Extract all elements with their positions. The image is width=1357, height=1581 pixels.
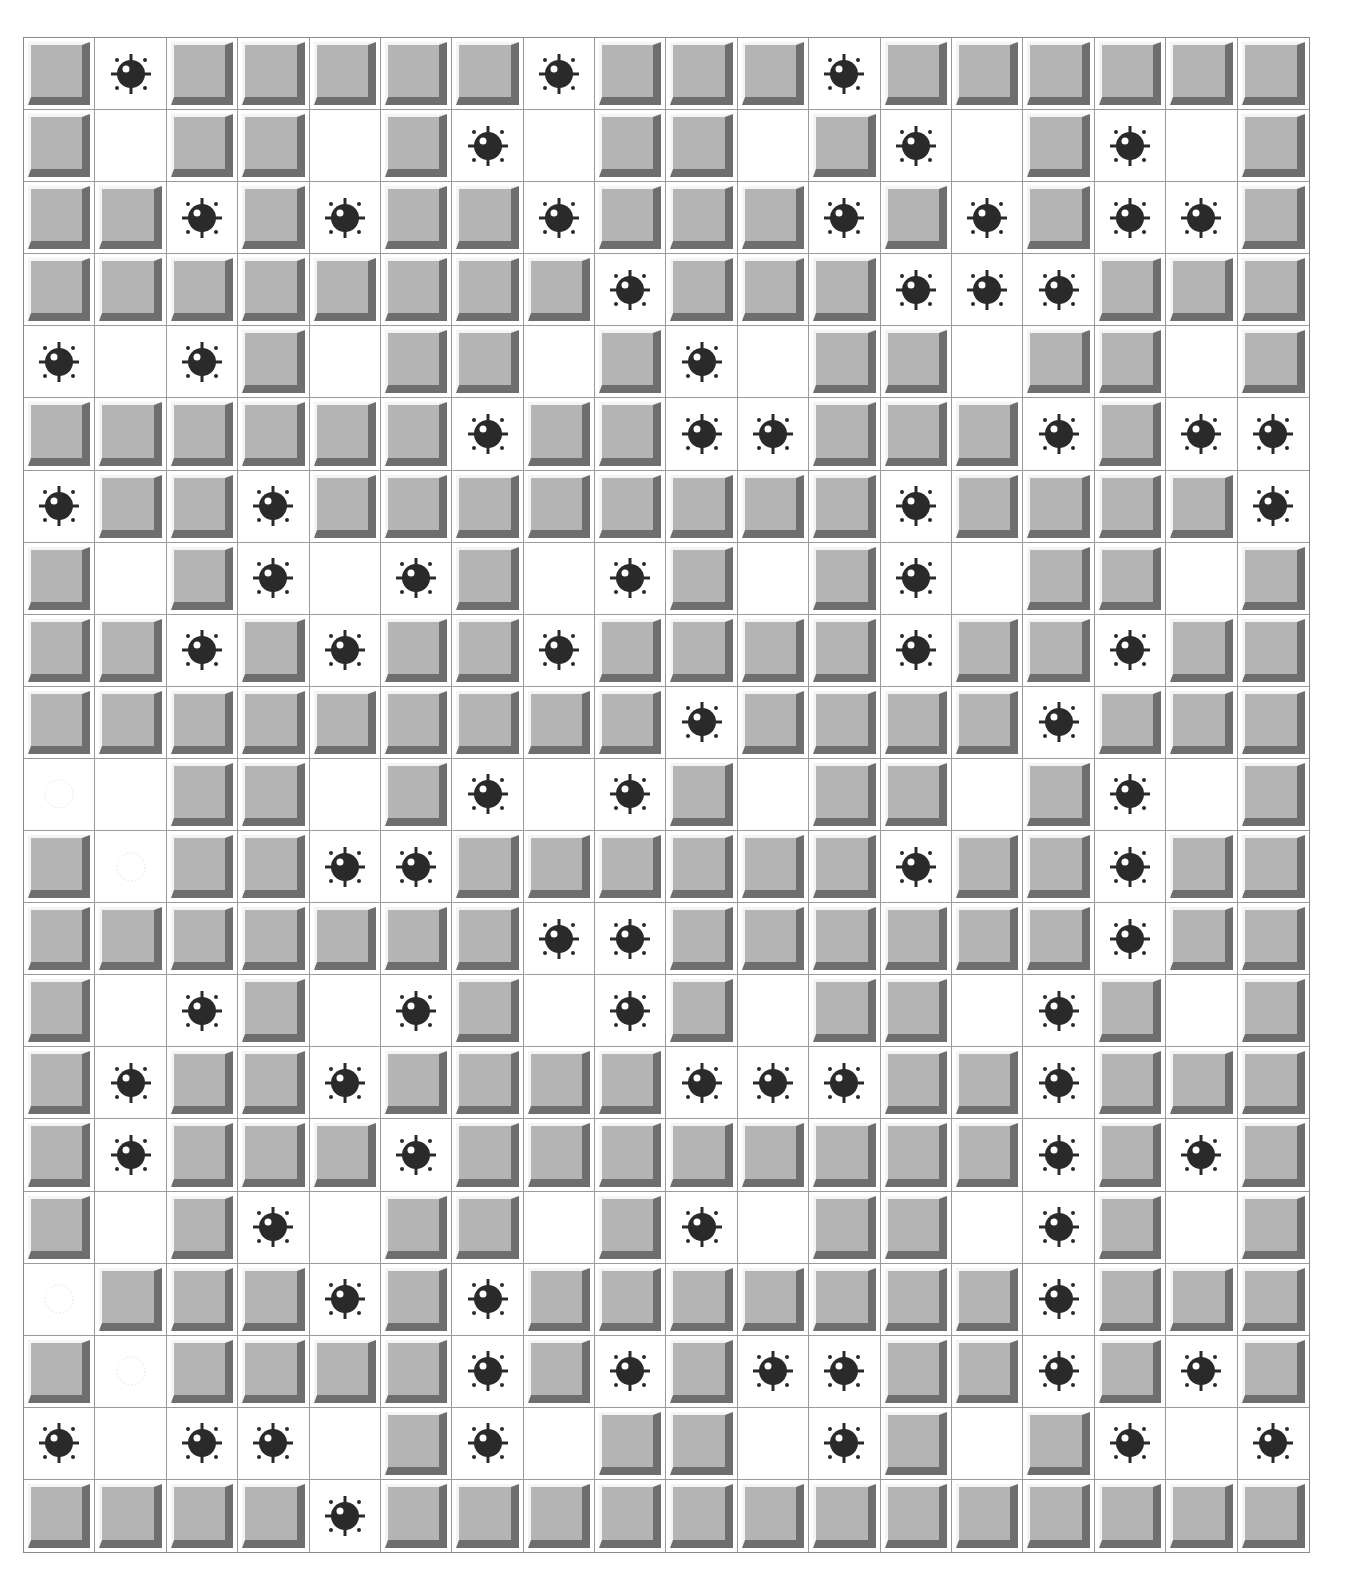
cell-unrevealed-r9-c17[interactable] <box>1238 687 1309 759</box>
cell-unrevealed-r15-c17[interactable] <box>1238 1119 1309 1191</box>
cell-mine-r6-c3[interactable] <box>238 471 309 543</box>
cell-unrevealed-r18-c17[interactable] <box>1238 1336 1309 1408</box>
cell-unrevealed-r9-c12[interactable] <box>881 687 952 759</box>
cell-mine-r8-c4[interactable] <box>310 615 381 687</box>
cell-mine-r15-c14[interactable] <box>1023 1119 1094 1191</box>
cell-mine-r5-c9[interactable] <box>666 398 737 470</box>
cell-unrevealed-r13-c0[interactable] <box>24 975 95 1047</box>
cell-unrevealed-r8-c10[interactable] <box>738 615 809 687</box>
cell-unrevealed-r18-c3[interactable] <box>238 1336 309 1408</box>
cell-mine-r2-c16[interactable] <box>1166 182 1237 254</box>
cell-empty-r16-c4[interactable] <box>310 1192 381 1264</box>
cell-unrevealed-r16-c2[interactable] <box>167 1192 238 1264</box>
cell-mine-r3-c8[interactable] <box>595 254 666 326</box>
cell-unrevealed-r3-c16[interactable] <box>1166 254 1237 326</box>
cell-empty-r13-c16[interactable] <box>1166 975 1237 1047</box>
cell-unrevealed-r2-c3[interactable] <box>238 182 309 254</box>
cell-unrevealed-r0-c0[interactable] <box>24 38 95 110</box>
cell-unrevealed-r6-c10[interactable] <box>738 471 809 543</box>
cell-unrevealed-r2-c12[interactable] <box>881 182 952 254</box>
cell-mine-r17-c14[interactable] <box>1023 1264 1094 1336</box>
cell-mine-r2-c11[interactable] <box>809 182 880 254</box>
cell-unrevealed-r15-c9[interactable] <box>666 1119 737 1191</box>
cell-unrevealed-r5-c3[interactable] <box>238 398 309 470</box>
cell-unrevealed-r6-c7[interactable] <box>524 471 595 543</box>
cell-unrevealed-r14-c15[interactable] <box>1095 1047 1166 1119</box>
cell-unrevealed-r0-c8[interactable] <box>595 38 666 110</box>
cell-unrevealed-r18-c12[interactable] <box>881 1336 952 1408</box>
cell-unrevealed-r10-c9[interactable] <box>666 759 737 831</box>
cell-unrevealed-r17-c13[interactable] <box>952 1264 1023 1336</box>
cell-unrevealed-r17-c16[interactable] <box>1166 1264 1237 1336</box>
cell-unrevealed-r9-c16[interactable] <box>1166 687 1237 759</box>
cell-unrevealed-r20-c17[interactable] <box>1238 1480 1309 1552</box>
cell-unrevealed-r18-c9[interactable] <box>666 1336 737 1408</box>
cell-mine-r2-c2[interactable] <box>167 182 238 254</box>
cell-unrevealed-r12-c13[interactable] <box>952 903 1023 975</box>
cell-unrevealed-r8-c3[interactable] <box>238 615 309 687</box>
cell-mine-r6-c17[interactable] <box>1238 471 1309 543</box>
cell-unrevealed-r14-c2[interactable] <box>167 1047 238 1119</box>
cell-empty-r4-c1[interactable] <box>95 326 166 398</box>
cell-unrevealed-r12-c6[interactable] <box>452 903 523 975</box>
cell-mine-r14-c14[interactable] <box>1023 1047 1094 1119</box>
cell-unrevealed-r3-c6[interactable] <box>452 254 523 326</box>
cell-unrevealed-r12-c5[interactable] <box>381 903 452 975</box>
cell-unrevealed-r13-c11[interactable] <box>809 975 880 1047</box>
cell-mine-r9-c9[interactable] <box>666 687 737 759</box>
cell-mine-r13-c2[interactable] <box>167 975 238 1047</box>
cell-unrevealed-r5-c12[interactable] <box>881 398 952 470</box>
cell-empty-r10-c4[interactable] <box>310 759 381 831</box>
cell-mine-r15-c5[interactable] <box>381 1119 452 1191</box>
cell-unrevealed-r6-c13[interactable] <box>952 471 1023 543</box>
cell-empty-r10-c7[interactable] <box>524 759 595 831</box>
cell-mine-r17-c6[interactable] <box>452 1264 523 1336</box>
cell-unrevealed-r6-c6[interactable] <box>452 471 523 543</box>
cell-unrevealed-r9-c5[interactable] <box>381 687 452 759</box>
cell-empty-r10-c10[interactable] <box>738 759 809 831</box>
cell-empty-r7-c4[interactable] <box>310 543 381 615</box>
cell-mine-r4-c0[interactable] <box>24 326 95 398</box>
cell-mine-r13-c8[interactable] <box>595 975 666 1047</box>
cell-unrevealed-r3-c7[interactable] <box>524 254 595 326</box>
cell-empty-r1-c7[interactable] <box>524 110 595 182</box>
cell-unrevealed-r9-c15[interactable] <box>1095 687 1166 759</box>
cell-unrevealed-r6-c9[interactable] <box>666 471 737 543</box>
cell-mine-r10-c15[interactable] <box>1095 759 1166 831</box>
cell-unrevealed-r12-c10[interactable] <box>738 903 809 975</box>
cell-unrevealed-r13-c6[interactable] <box>452 975 523 1047</box>
cell-empty-r4-c7[interactable] <box>524 326 595 398</box>
cell-unrevealed-r10-c12[interactable] <box>881 759 952 831</box>
cell-unrevealed-r15-c3[interactable] <box>238 1119 309 1191</box>
cell-unrevealed-r13-c12[interactable] <box>881 975 952 1047</box>
cell-unrevealed-r12-c2[interactable] <box>167 903 238 975</box>
cell-mine-r6-c12[interactable] <box>881 471 952 543</box>
cell-mine-r8-c2[interactable] <box>167 615 238 687</box>
cell-mine-r3-c14[interactable] <box>1023 254 1094 326</box>
cell-unrevealed-r14-c13[interactable] <box>952 1047 1023 1119</box>
cell-unrevealed-r6-c8[interactable] <box>595 471 666 543</box>
cell-unrevealed-r7-c11[interactable] <box>809 543 880 615</box>
cell-mine-r7-c8[interactable] <box>595 543 666 615</box>
cell-mine-r5-c6[interactable] <box>452 398 523 470</box>
cell-unrevealed-r3-c5[interactable] <box>381 254 452 326</box>
cell-unrevealed-r13-c15[interactable] <box>1095 975 1166 1047</box>
cell-unrevealed-r11-c0[interactable] <box>24 831 95 903</box>
cell-unrevealed-r11-c8[interactable] <box>595 831 666 903</box>
cell-empty-r19-c10[interactable] <box>738 1408 809 1480</box>
cell-mine-r9-c14[interactable] <box>1023 687 1094 759</box>
cell-unrevealed-r18-c15[interactable] <box>1095 1336 1166 1408</box>
cell-unrevealed-r13-c9[interactable] <box>666 975 737 1047</box>
cell-unrevealed-r8-c11[interactable] <box>809 615 880 687</box>
cell-unrevealed-r4-c6[interactable] <box>452 326 523 398</box>
cell-mine-r14-c10[interactable] <box>738 1047 809 1119</box>
cell-unrevealed-r2-c8[interactable] <box>595 182 666 254</box>
cell-unrevealed-r9-c7[interactable] <box>524 687 595 759</box>
cell-unrevealed-r14-c16[interactable] <box>1166 1047 1237 1119</box>
cell-mine-r12-c15[interactable] <box>1095 903 1166 975</box>
cell-unrevealed-r20-c13[interactable] <box>952 1480 1023 1552</box>
cell-unrevealed-r5-c8[interactable] <box>595 398 666 470</box>
cell-unrevealed-r8-c17[interactable] <box>1238 615 1309 687</box>
cell-unrevealed-r17-c7[interactable] <box>524 1264 595 1336</box>
cell-mine-r18-c14[interactable] <box>1023 1336 1094 1408</box>
